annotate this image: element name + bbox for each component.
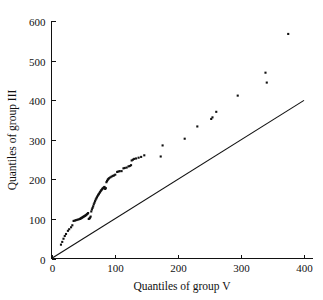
y-tick-label: 0 [40,254,46,266]
data-point [162,144,164,146]
y-axis-title: Quantiles of group III [6,90,19,191]
data-point [64,235,66,237]
data-point [90,210,92,212]
data-point [105,187,107,189]
data-point [90,216,92,218]
x-axis-tick-labels: 0100200300400 [50,262,314,274]
data-point [62,238,64,240]
x-tick-label: 0 [50,262,56,274]
data-point [237,95,239,97]
y-tick-label: 600 [29,16,46,28]
data-point [61,241,63,243]
y-tick-label: 200 [29,174,46,186]
data-point [92,205,94,207]
data-point [60,244,62,246]
data-point [266,82,268,84]
data-point [138,157,140,159]
data-point [130,164,132,166]
qq-plot-figure: 0100200300400 0100200300400500600 Quanti… [0,0,323,300]
x-tick-label: 100 [107,262,124,274]
data-point [114,174,116,176]
x-tick-label: 400 [296,262,313,274]
axes-group [52,21,314,258]
y-axis-ticks [52,22,56,260]
x-tick-label: 200 [170,262,187,274]
data-point [184,138,186,140]
data-point [140,156,142,158]
data-point [287,33,289,35]
data-point [215,111,217,113]
x-axis-ticks [53,255,305,259]
x-axis-title: Quantiles of group V [133,280,231,293]
data-point [160,155,162,157]
data-point [119,170,121,172]
data-point [196,125,198,127]
data-point [68,228,70,230]
data-point [71,224,73,226]
scatter-plot-canvas: 0100200300400 0100200300400500600 Quanti… [0,0,323,300]
data-point [87,212,89,214]
data-point [135,157,137,159]
x-tick-label: 300 [233,262,250,274]
y-tick-label: 500 [29,56,46,68]
y-tick-label: 400 [29,95,46,107]
data-point [65,233,67,235]
data-point [70,226,72,228]
data-point [126,167,128,169]
data-point [211,116,213,118]
y-tick-label: 100 [29,214,46,226]
reference-line [52,100,305,258]
data-point [124,167,126,169]
y-axis-tick-labels: 0100200300400500600 [29,16,46,266]
data-point [264,72,266,74]
reference-line-segment [52,100,305,258]
data-point [133,158,135,160]
y-tick-label: 300 [29,135,46,147]
data-point [143,154,145,156]
data-point [121,170,123,172]
data-points-group [60,33,289,246]
